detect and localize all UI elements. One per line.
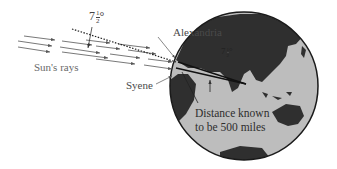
syene-label: Syene <box>126 80 153 91</box>
distance-label-line1: Distance known <box>195 106 269 120</box>
dotted-vertical-line <box>72 29 176 62</box>
distance-label: Distance known to be 500 miles <box>195 106 269 134</box>
angle-label-inner: 712° <box>221 47 233 58</box>
alexandria-leader <box>158 37 175 58</box>
angle-label-outer: 712° <box>89 10 104 25</box>
alexandria-label: Alexandria <box>173 27 222 38</box>
eratosthenes-diagram: 712° Alexandria Sun's rays Syene 712° Di… <box>0 0 337 169</box>
distance-label-line2: to be 500 miles <box>195 120 269 134</box>
diagram-canvas <box>0 0 337 169</box>
suns-rays-label: Sun's rays <box>34 62 78 73</box>
